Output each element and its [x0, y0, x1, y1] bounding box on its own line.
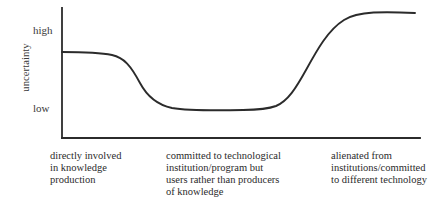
stage-label-committed-to-technological-institution: committed to technological institution/p…: [166, 150, 326, 198]
y-tick-label-low: low: [33, 102, 50, 114]
y-tick-label-high: high: [33, 24, 53, 36]
y-axis-title: uncertainty: [20, 28, 31, 108]
stage-label-alienated-from-institutions: alienated from institutions/committed to…: [331, 150, 446, 186]
figure-canvas: high low uncertainty directly involved i…: [0, 0, 446, 208]
uncertainty-data-curve: [62, 12, 415, 110]
stage-label-directly-involved: directly involved in knowledge productio…: [50, 150, 170, 186]
